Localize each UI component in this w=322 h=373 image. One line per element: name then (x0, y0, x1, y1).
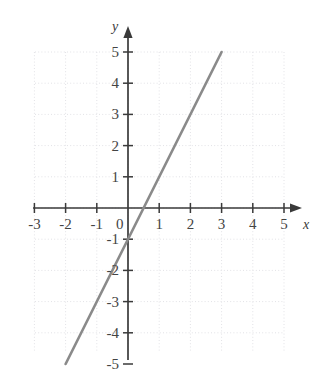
y-tick-label-1: 1 (112, 170, 120, 185)
y-axis-label: y (112, 20, 118, 34)
y-tick-label-5: 5 (112, 45, 120, 60)
x-axis-arrowhead (290, 203, 302, 212)
x-tick-label-neg1: -1 (91, 217, 104, 232)
x-axis-label: x (303, 218, 309, 232)
y-tick-label-neg5: -5 (107, 357, 120, 372)
y-tick-label-neg1: -1 (107, 232, 120, 247)
gridlines-group (34, 52, 284, 352)
y-tick-label-4: 4 (112, 76, 120, 91)
x-tick-label-1: 1 (155, 217, 163, 232)
x-tick-label-4: 4 (249, 217, 257, 232)
axes-group (33, 26, 302, 360)
y-tick-label-2: 2 (112, 139, 120, 154)
x-tick-label-2: 2 (187, 217, 195, 232)
x-tick-label-0: 0 (116, 217, 124, 232)
x-tick-label-neg2: -2 (59, 217, 72, 232)
y-axis-arrowhead (123, 26, 132, 38)
y-tick-label-neg4: -4 (107, 326, 120, 341)
linear-graph-figure: -3-2-1012345-5-4-3-2-112345 y x (0, 0, 322, 373)
x-tick-label-5: 5 (280, 217, 288, 232)
y-tick-label-3: 3 (112, 107, 120, 122)
x-tick-label-neg3: -3 (28, 217, 41, 232)
y-tick-label-neg2: -2 (107, 263, 120, 278)
y-tick-label-neg3: -3 (107, 295, 120, 310)
x-tick-label-3: 3 (218, 217, 226, 232)
plot-canvas (0, 0, 322, 373)
